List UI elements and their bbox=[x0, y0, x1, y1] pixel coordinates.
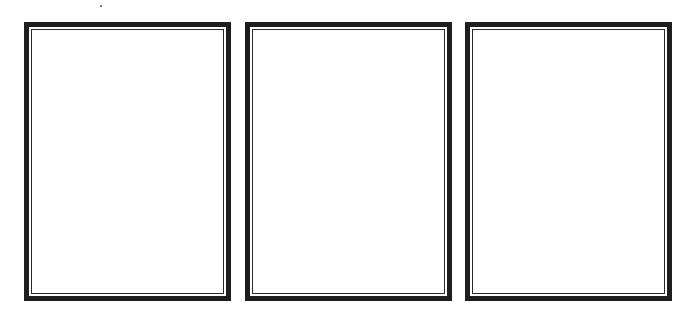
panel-1-inner-border bbox=[31, 29, 224, 294]
empty-panel-2 bbox=[245, 22, 452, 301]
empty-panel-3 bbox=[465, 22, 672, 301]
empty-panel-1 bbox=[24, 22, 231, 301]
stray-dot bbox=[100, 5, 102, 7]
panel-2-inner-border bbox=[252, 29, 445, 294]
panel-3-inner-border bbox=[472, 29, 665, 294]
